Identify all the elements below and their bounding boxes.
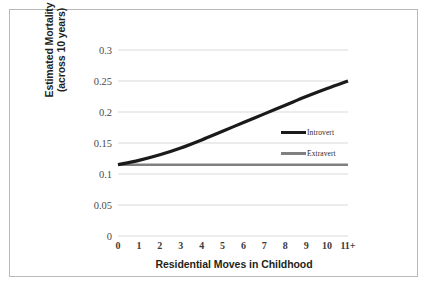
- legend-label-extravert: Extravert: [307, 149, 336, 158]
- y-axis-tick-label: 0.25: [74, 76, 112, 87]
- x-axis-tick-label: 3: [178, 240, 183, 251]
- x-axis-tick-label: 6: [241, 240, 246, 251]
- y-axis-title-line-1: Estimated Mortality: [44, 0, 56, 143]
- x-axis-tick-label: 7: [262, 240, 267, 251]
- y-axis-title-line-2: (across 10 years): [56, 0, 68, 143]
- x-axis-tick-label: 11+: [340, 240, 355, 251]
- y-axis-tick-label: 0.3: [74, 45, 112, 56]
- y-axis-tick-label: 0.2: [74, 107, 112, 118]
- x-axis-title: Residential Moves in Childhood: [118, 258, 350, 270]
- legend-item-introvert: Introvert: [281, 128, 334, 137]
- x-axis-tick-label: 2: [157, 240, 162, 251]
- y-axis-tick-label: 0.1: [74, 169, 112, 180]
- legend-label-introvert: Introvert: [307, 128, 334, 137]
- x-axis-tick-label: 5: [220, 240, 225, 251]
- legend-swatch-introvert: [281, 131, 306, 134]
- y-axis-tick-label: 0: [74, 231, 112, 242]
- y-axis-tick-label: 0.15: [74, 138, 112, 149]
- x-axis-tick-label: 4: [199, 240, 204, 251]
- y-axis-tick-label: 0.05: [74, 200, 112, 211]
- legend-item-extravert: Extravert: [281, 149, 336, 158]
- gridline-group: [118, 50, 348, 236]
- x-axis-tick-label: 1: [136, 240, 141, 251]
- x-axis-tick-label: 0: [116, 240, 121, 251]
- x-axis-tick-label: 9: [304, 240, 309, 251]
- x-axis-tick-label: 8: [283, 240, 288, 251]
- x-axis-tick-label: 10: [322, 240, 332, 251]
- legend-swatch-extravert: [281, 152, 306, 155]
- y-axis-title: Estimated Mortality (across 10 years): [44, 0, 66, 143]
